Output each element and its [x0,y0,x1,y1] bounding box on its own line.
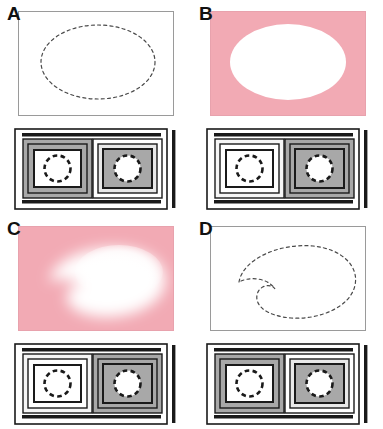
schematic-d-drawing [206,343,374,425]
schematic-b-cell-left [215,139,284,198]
panel-b: B [192,0,383,214]
micrograph-d-drawing [211,227,365,330]
panel-d: D [192,215,383,429]
schematic-a-circle-right [115,156,141,182]
schematic-d-circle-left [237,371,263,397]
panel-label-a: A [7,4,21,23]
schematic-a-cell-right [93,139,162,198]
region-fill-ellipse [230,24,346,100]
micrograph-c-drawing [19,227,173,330]
panel-label-c: C [7,219,21,238]
micrograph-b-drawing [211,12,365,115]
micrograph-d [210,226,366,331]
panel-label-d: D [199,219,213,238]
schematic-d-cell-right [285,354,354,413]
panel-label-b: B [199,4,213,23]
schematic-d [206,343,374,425]
schematic-b-circle-right [307,156,333,182]
schematic-d-circle-right [307,371,333,397]
micrograph-c [18,226,174,331]
micrograph-a [18,11,174,116]
schematic-c-circle-right [115,371,141,397]
micrograph-a-drawing [19,12,173,115]
schematic-b-circle-left [237,156,263,182]
schematic-a [14,128,182,210]
panel-a: A [0,0,191,214]
schematic-a-cell-left [23,139,92,198]
schematic-c-cell-left [23,354,92,413]
region-outline-comma [239,246,356,319]
panel-c: C [0,215,191,429]
figure-root: A [0,0,383,429]
schematic-c-drawing [14,343,182,425]
region-outline-ellipse [41,25,155,99]
schematic-c-circle-left [45,371,71,397]
schematic-b-cell-right [285,139,354,198]
schematic-b [206,128,374,210]
schematic-c-cell-right [93,354,162,413]
schematic-c [14,343,182,425]
micrograph-b [210,11,366,116]
schematic-d-cell-left [215,354,284,413]
schematic-a-drawing [14,128,182,210]
schematic-b-drawing [206,128,374,210]
schematic-a-circle-left [45,156,71,182]
